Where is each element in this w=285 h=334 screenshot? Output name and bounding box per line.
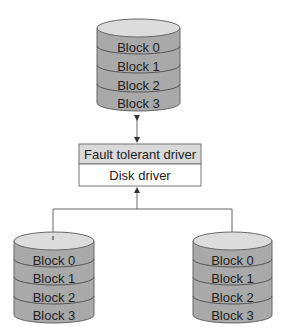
block-label: Block 1	[211, 271, 254, 286]
driver-stack: Fault tolerant driver Disk driver	[79, 144, 201, 186]
block-label: Block 3	[117, 96, 160, 111]
block-label: Block 1	[33, 271, 76, 286]
block-label: Block 2	[117, 78, 160, 93]
block-label: Block 3	[211, 308, 254, 323]
block-label: Block 0	[211, 253, 254, 268]
block-label: Block 3	[33, 308, 76, 323]
block-label: Block 0	[33, 253, 76, 268]
top-disk: Block 0 Block 1 Block 2 Block 3	[97, 19, 180, 111]
disk-top-surface	[14, 232, 94, 250]
disk-top-surface	[193, 232, 272, 250]
block-label: Block 2	[33, 290, 76, 305]
diagram-canvas: Block 0 Block 1 Block 2 Block 3 Fault to…	[0, 0, 285, 334]
disk-driver-label: Disk driver	[109, 168, 171, 183]
left-disk: Block 0 Block 1 Block 2 Block 3	[14, 232, 94, 323]
block-label: Block 2	[211, 290, 254, 305]
right-disk: Block 0 Block 1 Block 2 Block 3	[193, 232, 272, 323]
disk-top-surface	[97, 19, 180, 37]
fault-tolerant-driver-label: Fault tolerant driver	[84, 147, 197, 162]
block-label: Block 1	[117, 59, 160, 74]
block-label: Block 0	[117, 40, 160, 55]
